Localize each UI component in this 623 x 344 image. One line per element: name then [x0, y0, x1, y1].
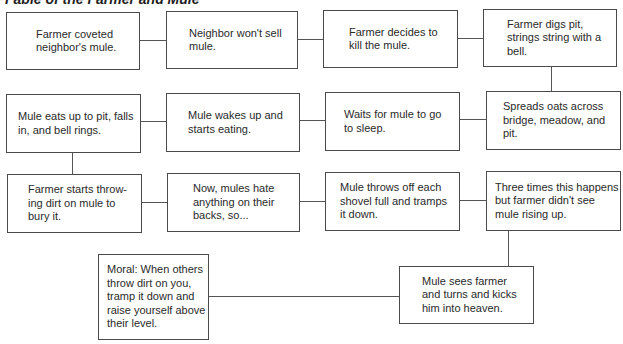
- step-box-mules-hate: Now, mules hate anything on their backs,…: [167, 173, 300, 232]
- connector-b1-b2: [140, 40, 166, 41]
- step-text: Mule eats up to pit, falls in, and bell …: [18, 110, 134, 137]
- step-box-waits-sleep: Waits for mule to go to sleep.: [325, 92, 460, 151]
- step-text: Three times this happens but farmer didn…: [495, 181, 619, 222]
- step-box-mule-throws-off: Mule throws off each shovel full and tra…: [325, 172, 460, 231]
- step-box-neighbor-wont-sell: Neighbor won't sell mule.: [166, 11, 298, 69]
- diagram-title: Fable of the Farmer and Mule: [5, 0, 199, 7]
- step-text: Farmer starts throw- ing dirt on mule to…: [28, 183, 127, 224]
- step-text: Mule wakes up and starts eating.: [188, 109, 283, 136]
- step-box-mule-eats-falls: Mule eats up to pit, falls in, and bell …: [6, 94, 141, 153]
- step-text: Waits for mule to go to sleep.: [344, 108, 441, 135]
- connector-b12-b13: [508, 231, 509, 266]
- step-box-farmer-throws-dirt: Farmer starts throw- ing dirt on mule to…: [7, 174, 142, 233]
- connector-b13-moral: [209, 296, 399, 297]
- connector-b11-b12: [460, 200, 486, 201]
- step-text: Farmer decides to kill the mule.: [349, 26, 438, 53]
- step-box-mule-wakes: Mule wakes up and starts eating.: [166, 93, 300, 152]
- connector-b6-b5: [460, 119, 486, 120]
- connector-b4-b5: [551, 67, 552, 91]
- connector-b8-b9: [72, 153, 73, 174]
- step-box-three-times: Three times this happens but farmer didn…: [486, 171, 621, 231]
- connector-b10-b11: [300, 201, 325, 202]
- step-text: Mule sees farmer and turns and kicks him…: [422, 275, 517, 316]
- connector-b2-b3: [298, 39, 323, 40]
- moral-box: Moral: When others throw dirt on you, tr…: [98, 254, 209, 340]
- step-text: Mule throws off each shovel full and tra…: [340, 181, 447, 222]
- step-box-spreads-oats: Spreads oats across bridge, meadow, and …: [486, 91, 621, 150]
- step-text: Farmer coveted neighbor's mule.: [36, 28, 116, 55]
- step-text: Now, mules hate anything on their backs,…: [193, 182, 274, 223]
- step-text: Neighbor won't sell mule.: [189, 27, 282, 54]
- connector-b7-b6: [300, 120, 325, 121]
- step-box-farmer-decides-kill: Farmer decides to kill the mule.: [323, 10, 458, 68]
- step-box-farmer-digs-pit: Farmer digs pit, strings string with a b…: [483, 9, 617, 67]
- connector-b3-b4: [458, 38, 483, 39]
- step-text: Spreads oats across bridge, meadow, and …: [503, 100, 605, 141]
- step-text: Farmer digs pit, strings string with a b…: [507, 18, 601, 59]
- moral-text: Moral: When others throw dirt on you, tr…: [107, 263, 205, 331]
- step-box-mule-kicks-farmer: Mule sees farmer and turns and kicks him…: [399, 266, 534, 324]
- connector-b9-b10: [142, 202, 167, 203]
- step-box-farmer-coveted: Farmer coveted neighbor's mule.: [6, 12, 140, 70]
- connector-b8-b7: [141, 121, 166, 122]
